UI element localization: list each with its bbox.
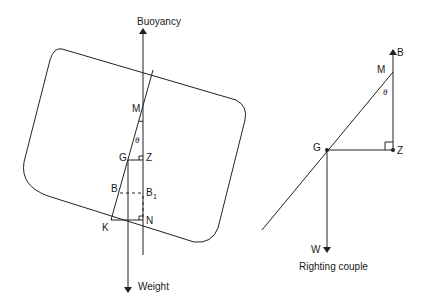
stability-diagram: Buoyancy Weight M θ G Z B B 1 N K B M θ …: [0, 0, 421, 307]
label-theta: θ: [135, 135, 140, 145]
label-b: B: [397, 47, 404, 58]
label-buoyancy: Buoyancy: [137, 16, 181, 27]
right-angle-z: [139, 156, 143, 160]
label-b1: B: [146, 187, 153, 198]
hull-outline: [24, 49, 246, 242]
label-theta: θ: [383, 87, 388, 97]
point-g: [325, 148, 329, 152]
label-b1-sub: 1: [153, 193, 157, 200]
left-figure: Buoyancy Weight M θ G Z B B 1 N K: [24, 16, 246, 292]
theta-arc: [139, 121, 143, 122]
label-n: N: [146, 215, 153, 226]
label-g: G: [119, 152, 127, 163]
label-k: K: [102, 222, 109, 233]
label-z: Z: [397, 145, 403, 156]
label-weight: Weight: [138, 281, 169, 292]
right-angle-n: [139, 216, 143, 220]
label-g: G: [313, 142, 321, 153]
label-m: M: [377, 64, 385, 75]
right-figure: B M θ G Z W Righting couple: [262, 47, 404, 272]
label-z: Z: [146, 152, 152, 163]
label-m: M: [132, 103, 140, 114]
label-b: B: [111, 183, 118, 194]
label-w: W: [311, 244, 321, 255]
caption-righting-couple: Righting couple: [299, 261, 368, 272]
point-z: [391, 148, 395, 152]
